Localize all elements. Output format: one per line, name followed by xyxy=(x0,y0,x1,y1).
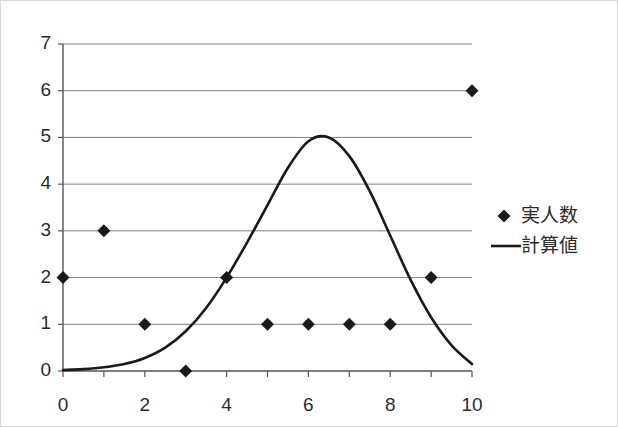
data-point xyxy=(384,318,397,331)
x-tick-label: 6 xyxy=(303,394,314,415)
legend-label-actual: 実人数 xyxy=(521,204,578,226)
x-axis-tick-labels: 0246810 xyxy=(58,394,483,415)
chart-canvas: 01234567 0246810 実人数 計算値 xyxy=(1,1,618,427)
series-line-calculated xyxy=(63,136,472,370)
y-axis-ticks xyxy=(58,44,63,371)
y-tick-label: 6 xyxy=(40,79,51,100)
data-point xyxy=(57,271,70,284)
data-point xyxy=(97,224,110,237)
y-tick-label: 5 xyxy=(40,125,51,146)
y-tick-label: 1 xyxy=(40,312,51,333)
y-tick-label: 0 xyxy=(40,359,51,380)
y-tick-label: 2 xyxy=(40,266,51,287)
x-axis-ticks xyxy=(63,371,472,377)
data-point xyxy=(343,318,356,331)
x-tick-label: 0 xyxy=(58,394,69,415)
y-tick-label: 7 xyxy=(40,32,51,53)
y-tick-label: 3 xyxy=(40,219,51,240)
chart-figure: 01234567 0246810 実人数 計算値 xyxy=(0,0,618,427)
x-tick-label: 2 xyxy=(140,394,151,415)
data-point xyxy=(466,84,479,97)
data-point xyxy=(425,271,438,284)
x-tick-label: 8 xyxy=(385,394,396,415)
data-point xyxy=(302,318,315,331)
x-tick-label: 4 xyxy=(221,394,232,415)
data-point xyxy=(220,271,233,284)
legend-diamond-icon xyxy=(498,210,511,223)
data-point xyxy=(179,365,192,378)
y-axis-tick-labels: 01234567 xyxy=(40,32,51,380)
data-point xyxy=(138,318,151,331)
legend-label-calculated: 計算値 xyxy=(521,234,578,256)
chart-legend: 実人数 計算値 xyxy=(491,204,578,256)
data-point xyxy=(261,318,274,331)
y-tick-label: 4 xyxy=(40,172,51,193)
x-tick-label: 10 xyxy=(461,394,482,415)
